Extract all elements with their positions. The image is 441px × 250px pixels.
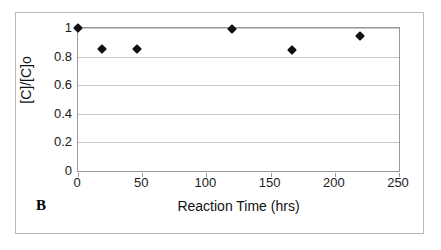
y-axis-tick-labels: 00.20.40.60.81 bbox=[34, 27, 72, 172]
y-tick-label: 0.4 bbox=[54, 107, 72, 120]
x-tick-label: 200 bbox=[323, 176, 345, 189]
data-point-marker bbox=[356, 31, 366, 41]
y-tick-label: 0 bbox=[65, 164, 72, 177]
data-point-marker bbox=[287, 45, 297, 55]
x-tick-label: 50 bbox=[134, 176, 148, 189]
x-tick-label: 100 bbox=[195, 176, 217, 189]
data-point-marker bbox=[132, 44, 142, 54]
gridline bbox=[78, 28, 399, 29]
y-axis-title: [C]/[C]o bbox=[18, 30, 34, 130]
x-axis-tick-labels: 050100150200250 bbox=[77, 176, 400, 194]
gridline bbox=[78, 57, 399, 58]
plot-area bbox=[77, 27, 400, 172]
panel-label-b: B bbox=[36, 198, 46, 213]
y-tick-label: 0.6 bbox=[54, 78, 72, 91]
x-tick-label: 150 bbox=[259, 176, 281, 189]
x-tick-label: 250 bbox=[387, 176, 409, 189]
gridline bbox=[78, 85, 399, 86]
figure-panel: B 00.20.40.60.81 050100150200250 Reactio… bbox=[0, 0, 441, 250]
gridline bbox=[78, 114, 399, 115]
y-tick-label: 1 bbox=[65, 21, 72, 34]
gridline bbox=[78, 142, 399, 143]
y-tick-label: 0.2 bbox=[54, 135, 72, 148]
y-tick-label: 0.8 bbox=[54, 50, 72, 63]
data-point-marker bbox=[97, 44, 107, 54]
x-axis-title: Reaction Time (hrs) bbox=[77, 198, 400, 214]
x-tick-label: 0 bbox=[73, 176, 80, 189]
